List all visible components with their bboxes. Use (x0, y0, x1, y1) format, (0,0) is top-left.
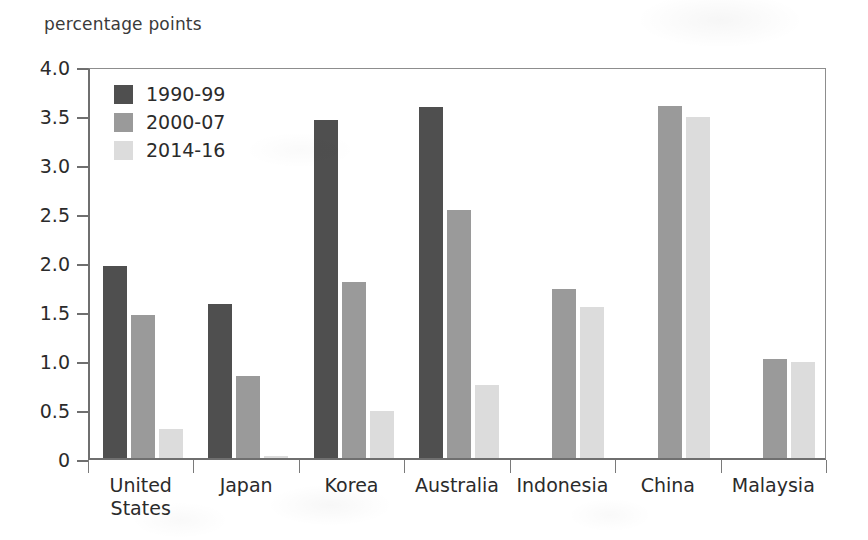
y-axis-tick-mark (77, 313, 88, 315)
x-axis-separator (193, 460, 194, 473)
bar (236, 376, 260, 458)
bar (658, 106, 682, 458)
x-axis-separator (510, 460, 511, 473)
legend-swatch-icon (114, 141, 133, 160)
x-axis-category-label: United States (88, 474, 193, 520)
bar-chart: percentage points 00.51.01.52.02.53.03.5… (0, 0, 868, 540)
legend-label: 1990-99 (146, 85, 225, 104)
bar (763, 359, 787, 458)
y-axis-tick-label: 4.0 (40, 56, 70, 80)
legend-item: 1990-99 (114, 80, 225, 108)
y-axis-tick-label: 2.0 (40, 252, 70, 276)
y-axis-tick-label: 1.5 (40, 301, 70, 325)
y-axis-tick-mark (77, 215, 88, 217)
legend-label: 2000-07 (146, 113, 225, 132)
y-axis-tick-label: 3.5 (40, 105, 70, 129)
bar (475, 385, 499, 459)
y-axis-tick-mark (77, 264, 88, 266)
legend-swatch-icon (114, 113, 133, 132)
bar (791, 362, 815, 458)
x-axis-category-label: Indonesia (510, 474, 615, 497)
x-axis-category-label: China (615, 474, 720, 497)
bar (580, 307, 604, 458)
y-axis-tick-mark (77, 68, 88, 70)
chart-axis-title: percentage points (44, 14, 202, 34)
x-axis-separator (404, 460, 405, 473)
bar (342, 282, 366, 458)
bar (314, 120, 338, 458)
legend-item: 2000-07 (114, 108, 225, 136)
y-axis-tick-label: 1.0 (40, 350, 70, 374)
y-axis-tick-mark (77, 166, 88, 168)
chart-legend: 1990-992000-072014-16 (114, 80, 225, 164)
legend-item: 2014-16 (114, 136, 225, 164)
bar (447, 210, 471, 458)
bar (131, 315, 155, 458)
x-axis-separator (826, 460, 827, 473)
x-axis-category-label: Korea (299, 474, 404, 497)
x-axis-category-label: Japan (193, 474, 298, 497)
y-axis-tick-label: 0.5 (40, 399, 70, 423)
y-axis-tick-label: 3.0 (40, 154, 70, 178)
bar (686, 117, 710, 458)
y-axis-tick-label: 0 (58, 448, 70, 472)
x-axis-separator (721, 460, 722, 473)
y-axis-tick-mark (77, 460, 88, 462)
bar (264, 456, 288, 458)
legend-swatch-icon (114, 85, 133, 104)
bar (103, 266, 127, 458)
x-axis-separator (299, 460, 300, 473)
x-axis-separator (615, 460, 616, 473)
y-axis-tick-label: 2.5 (40, 203, 70, 227)
bar (159, 429, 183, 458)
bar (552, 289, 576, 458)
bar (370, 411, 394, 458)
x-axis-category-label: Malaysia (721, 474, 826, 497)
x-axis-separator (88, 460, 89, 473)
bar (419, 107, 443, 458)
y-axis-tick-mark (77, 411, 88, 413)
y-axis-tick-mark (77, 117, 88, 119)
y-axis-tick-mark (77, 362, 88, 364)
bar (208, 304, 232, 458)
legend-label: 2014-16 (146, 141, 225, 160)
x-axis-category-label: Australia (404, 474, 509, 497)
